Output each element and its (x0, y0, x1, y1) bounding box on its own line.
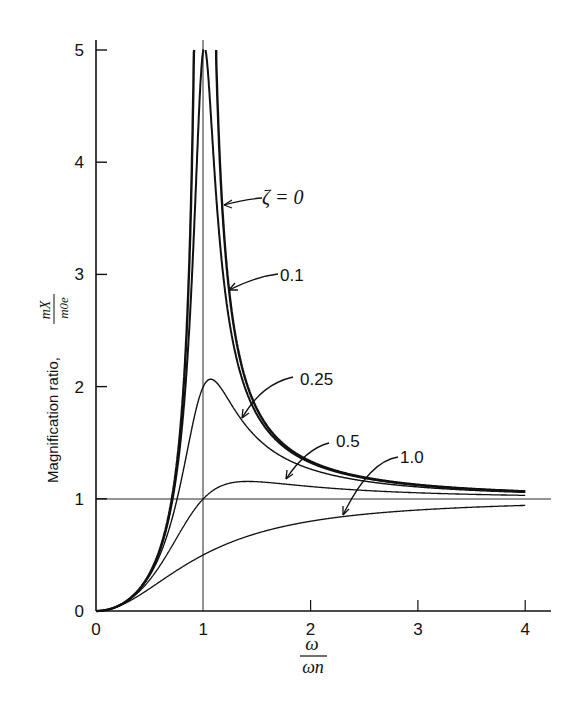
arrow-zeta01 (229, 274, 278, 290)
x-tick-label: 4 (520, 620, 529, 639)
y-tick-label: 4 (75, 153, 84, 172)
axes (96, 40, 551, 611)
svg-text:mX: mX (38, 300, 53, 319)
y-axis-label: Magnification ratio, mX m0e (38, 294, 71, 483)
y-tick-label: 2 (75, 378, 84, 397)
svg-text:Magnification ratio,: Magnification ratio, (44, 357, 61, 483)
y-tick-label: 3 (75, 265, 84, 284)
curve-zeta-0_1 (206, 50, 526, 492)
svg-text:ω: ω (305, 633, 318, 654)
x-tick-label: 0 (91, 620, 100, 639)
annotations (224, 198, 398, 515)
arrow-zeta10 (343, 457, 398, 515)
magnification-chart: 012345 01234 ζ = 0 0.1 0.25 0.5 1.0 Magn… (0, 0, 583, 716)
label-zeta025: 0.25 (300, 370, 333, 389)
label-zeta01: 0.1 (280, 266, 304, 285)
curve-zeta-0 (96, 50, 194, 611)
curve-zeta-1 (96, 505, 525, 611)
x-tick-label: 3 (413, 620, 422, 639)
y-tick-label: 5 (75, 41, 84, 60)
curve-zeta-0_25 (96, 379, 525, 611)
label-zeta10: 1.0 (400, 448, 424, 467)
svg-text:m0e: m0e (56, 297, 71, 319)
svg-text:ωn: ωn (302, 657, 324, 677)
label-zeta0: ζ = 0 (262, 186, 304, 209)
x-axis-label: ω ωn (300, 633, 327, 677)
y-tick-label: 1 (75, 490, 84, 509)
curves (96, 50, 525, 611)
label-zeta05: 0.5 (336, 432, 360, 451)
y-tick-label: 0 (75, 602, 84, 621)
x-tick-label: 1 (199, 620, 208, 639)
